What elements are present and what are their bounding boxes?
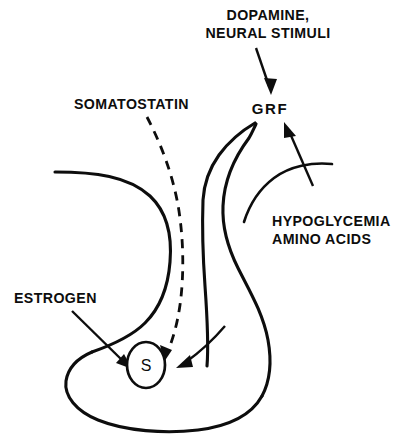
gland-right-outline [223,124,270,396]
somatostatin-dashed-path-group [147,117,183,362]
hypoglycemia-arrow-head [284,122,296,138]
label-dopamine-line1: DOPAMINE, [227,7,310,23]
cell-letter-s: S [141,357,152,374]
diagram-canvas: S DOPAMINE, NEURAL STIMULI SOMATOSTATIN … [0,0,403,437]
somatostatin-dashed-line [147,117,183,353]
label-hypoglycemia-line2: AMINO ACIDS [272,231,371,247]
hypoglycemia-arrow-shaft [289,131,313,186]
grf-stalk-arrow-shaft [186,326,225,362]
grf-stalk-arrow-head [176,355,193,368]
label-dopamine-line2: NEURAL STIMULI [205,25,330,41]
hypoglycemia-to-grf-arrow [284,122,313,186]
gland-left-upper-outline [55,172,170,352]
label-grf: GRF [252,100,288,117]
grf-to-cell-arrow [176,326,225,368]
somatotroph-cell: S [127,342,165,388]
dopamine-to-grf-arrow [256,48,277,95]
estrogen-arrow-shaft [72,311,124,362]
label-estrogen: ESTROGEN [14,290,97,306]
gland-outline-group [55,123,270,432]
label-hypoglycemia-line1: HYPOGLYCEMIA [272,213,391,229]
label-somatostatin: SOMATOSTATIN [74,96,189,112]
regulation-diagram: S DOPAMINE, NEURAL STIMULI SOMATOSTATIN … [0,0,403,437]
dopamine-arrow-head [264,78,277,95]
